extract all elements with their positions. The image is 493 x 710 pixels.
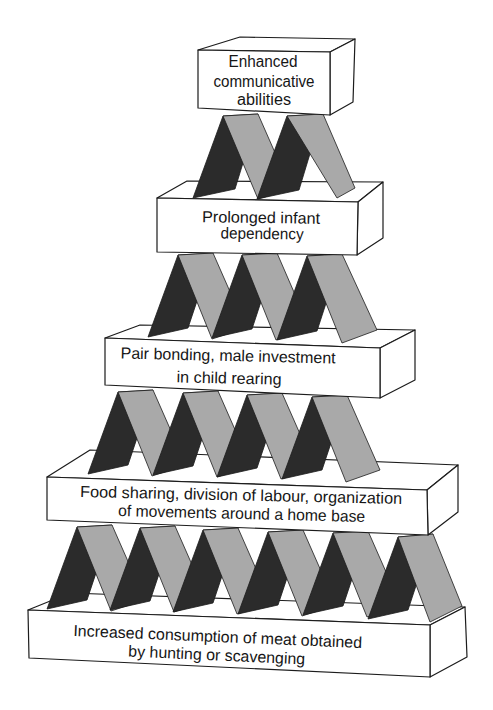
card-row-4 <box>47 525 462 622</box>
box-top-top-face <box>198 37 355 52</box>
pyramid-diagram: Enhanced communicative abilities Prolong… <box>0 0 493 710</box>
box-level-4-label: Food sharing, division of labour, organi… <box>80 483 402 525</box>
box-level-3-label-line: in child rearing <box>176 368 281 387</box>
box-top-label-line: abilities <box>237 91 291 108</box>
box-top-side-face <box>330 39 355 115</box>
box-top-label-line: communicative <box>214 73 315 90</box>
box-level-2-label-line: dependency <box>220 224 303 242</box>
card-row-1 <box>193 114 355 199</box>
box-level-2-label: Prolonged infant dependency <box>202 208 321 242</box>
box-top-label-line: Enhanced <box>229 53 298 70</box>
